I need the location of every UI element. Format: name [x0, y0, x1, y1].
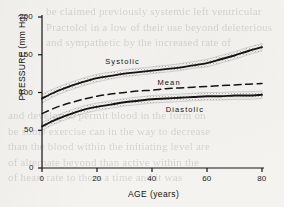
x-tick-label: 40	[147, 174, 156, 183]
series-label-systolic: Systolic	[105, 57, 140, 66]
y-tick-label: 150	[19, 50, 33, 59]
x-tick-label: 0	[40, 174, 45, 183]
y-tick-label: 100	[19, 88, 33, 97]
x-axis-title: AGE (years)	[128, 189, 179, 199]
y-tick-label: 200	[19, 12, 33, 21]
y-tick-label: 0	[29, 163, 34, 172]
series-label-mean: Mean	[158, 78, 181, 87]
x-tick-label: 20	[92, 174, 101, 183]
x-tick-label: 60	[202, 174, 211, 183]
figure-panel: be claimed previously systemic left vent…	[0, 0, 284, 207]
y-tick-label: 50	[24, 125, 33, 134]
series-label-diastolic: Diastolic	[166, 105, 204, 114]
x-tick-label: 80	[257, 174, 266, 183]
